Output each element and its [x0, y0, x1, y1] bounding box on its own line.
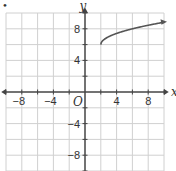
y-tick-label: −8	[67, 149, 80, 161]
x-tick-label: 4	[114, 95, 120, 107]
x-axis-label: x	[171, 85, 176, 99]
x-tick-label: −8	[13, 95, 26, 107]
y-tick-label: 8	[74, 23, 80, 35]
x-tick-label: −4	[44, 95, 57, 107]
coordinate-plane: −8−44884−4−8xyO	[0, 0, 176, 171]
y-axis-label: y	[79, 0, 87, 13]
x-tick-label: 8	[145, 95, 151, 107]
x-arrow-left-icon	[1, 89, 6, 95]
y-tick-label: −4	[67, 118, 80, 130]
origin-label: O	[73, 95, 83, 109]
x-arrow-icon	[164, 89, 169, 95]
y-tick-label: 4	[74, 54, 80, 66]
